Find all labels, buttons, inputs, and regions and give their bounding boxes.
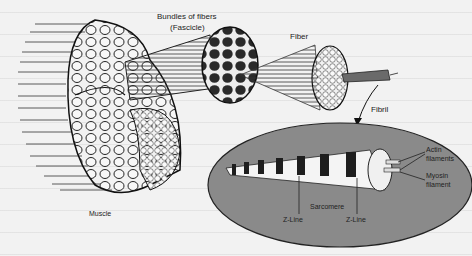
label-sarcomere: Sarcomere [310, 203, 344, 210]
label-myosin: Myosin [426, 172, 448, 179]
label-fascicle: (Fascicle) [170, 24, 205, 32]
label-actin-filaments: filaments [426, 155, 454, 162]
fibril-arrow [358, 85, 378, 122]
label-bundles-of-fibers: Bundles of fibers [157, 13, 217, 21]
label-muscle: Muscle [89, 210, 111, 217]
label-z-line-right: Z-Line [346, 216, 366, 223]
diagram-artwork [0, 0, 472, 256]
fascicle-cross-section [202, 27, 258, 103]
label-fibril: Fibril [371, 106, 388, 114]
muscle-structure-diagram: Bundles of fibers (Fascicle) Fiber Fibri… [0, 0, 472, 256]
label-myosin-filament: filament [426, 181, 451, 188]
label-z-line-left: Z-Line [283, 216, 303, 223]
fibril-rod [342, 70, 390, 82]
label-fiber: Fiber [290, 33, 308, 41]
label-actin: Actin [426, 146, 442, 153]
muscle-cross-section [68, 20, 181, 193]
